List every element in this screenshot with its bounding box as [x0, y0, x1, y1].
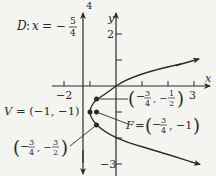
svg-text::: : [26, 19, 30, 33]
svg-text:, −: , − [153, 93, 168, 104]
lower-point-label: ( − 3 4 , − 3 2 ) [13, 137, 68, 158]
svg-text:4: 4 [161, 126, 166, 135]
y-tick-label-2: 2 [107, 28, 114, 41]
svg-text:4: 4 [29, 148, 34, 157]
directrix-top-label: 4 [86, 0, 92, 11]
svg-text:3: 3 [29, 138, 34, 147]
svg-text:(: ( [13, 137, 20, 158]
x-axis-label: x [205, 72, 212, 85]
svg-text:x: x [32, 19, 39, 33]
y-tick-label-neg3: −3 [100, 158, 116, 171]
y-axis-label: y [107, 12, 115, 25]
svg-text:(: ( [145, 115, 152, 136]
parabola-diagram: x y −2 3 2 −3 4 D : x = − 5 4 [0, 0, 216, 176]
upper-point-label: ( − 3 4 , − 1 2 ) [128, 88, 184, 109]
parabola-lower-arrow [190, 162, 200, 165]
svg-text:−: − [20, 140, 29, 153]
focus-label: F = ( − 3 4 , −1 ) [125, 115, 200, 136]
parabola-upper-arrow [176, 59, 199, 66]
svg-text:4: 4 [70, 28, 76, 38]
vertex-point [88, 110, 93, 115]
svg-text:): ) [177, 88, 184, 109]
svg-text:3: 3 [53, 138, 58, 147]
svg-text:−: − [136, 90, 145, 103]
svg-text:): ) [193, 115, 200, 136]
parabola-curve [90, 64, 198, 164]
svg-text:5: 5 [70, 16, 76, 26]
svg-text:F: F [125, 118, 135, 132]
svg-text:3: 3 [161, 116, 166, 125]
svg-text:1: 1 [169, 89, 174, 98]
svg-text:4: 4 [145, 99, 150, 108]
x-tick-label-neg2: −2 [56, 89, 72, 102]
svg-text:=: = [135, 118, 145, 132]
focus-leader [97, 112, 129, 124]
svg-text:2: 2 [169, 99, 174, 108]
svg-text:= −: = − [42, 19, 66, 33]
svg-text:, −: , − [37, 142, 52, 153]
x-tick-label-3: 3 [189, 89, 196, 102]
svg-text:, −1: , −1 [169, 119, 192, 132]
vertex-label: V = (−1, −1) [4, 104, 79, 118]
svg-text:−: − [152, 118, 161, 131]
svg-text:2: 2 [53, 148, 58, 157]
svg-text:3: 3 [145, 89, 150, 98]
directrix-label: D : x = − 5 4 [16, 16, 77, 38]
svg-text:): ) [61, 137, 68, 158]
svg-text:(: ( [128, 88, 135, 109]
